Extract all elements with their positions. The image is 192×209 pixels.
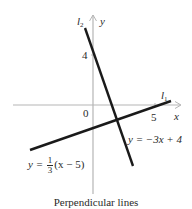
figure-caption: Perpendicular lines	[0, 196, 192, 208]
x-tick-label: 5	[151, 112, 157, 123]
diagram-canvas	[0, 0, 192, 209]
fraction: 13	[47, 156, 54, 175]
fraction-denominator: 3	[47, 166, 54, 175]
line-l1-subscript: 1	[164, 95, 168, 103]
line-l1-equation: y = 13(x − 5)	[28, 156, 84, 175]
origin-label: 0	[83, 108, 89, 119]
line-l1-label: l1	[161, 90, 168, 103]
x-axis-label: x	[174, 111, 179, 122]
line-l2-equation: y = −3x + 4	[128, 134, 182, 145]
y-tick-label: 4	[82, 50, 88, 61]
line-l2-subscript: 2	[80, 21, 84, 29]
y-axis-label: y	[100, 16, 105, 27]
line-l2	[85, 28, 133, 166]
line-l1-equation-suffix: (x − 5)	[54, 158, 84, 170]
line-l2-label: l2	[77, 16, 84, 29]
line-l1-equation-prefix: y =	[28, 158, 46, 170]
